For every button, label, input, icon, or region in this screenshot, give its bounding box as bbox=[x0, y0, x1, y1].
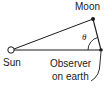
observer-dot-icon bbox=[99, 48, 103, 52]
angle-theta-label: θ bbox=[82, 32, 86, 43]
observer-pointer-curve bbox=[91, 52, 101, 81]
moon-dot-icon bbox=[91, 17, 95, 21]
moon-label: Moon bbox=[75, 1, 100, 12]
edge-moon-observer bbox=[93, 19, 101, 50]
sun-moon-earth-diagram: Moon θ Sun Observer on earth bbox=[0, 0, 105, 92]
angle-arc bbox=[88, 37, 98, 50]
observer-label-line1: Observer bbox=[50, 58, 91, 69]
observer-label-line2: on earth bbox=[52, 71, 89, 82]
sun-circle-icon bbox=[8, 47, 14, 53]
sun-label: Sun bbox=[3, 57, 21, 68]
